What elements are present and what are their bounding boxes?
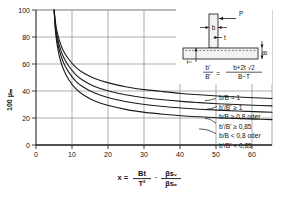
legend-label-1b: b'/B' ≥ 1: [219, 104, 243, 111]
y-tick-label-100: 100: [18, 7, 30, 14]
inset-ratio-den-left: B': [205, 73, 210, 80]
inset-label-T: T: [186, 60, 193, 64]
legend-label-1a: b/B = 1: [219, 94, 240, 101]
x-tick-label-0: 0: [34, 151, 38, 158]
y-tick-label-80: 80: [22, 34, 30, 41]
x-tick-label-20: 20: [104, 151, 112, 158]
y-tick-label-20: 20: [22, 115, 30, 122]
inset-ratio-num-right: b+2t √2: [233, 64, 255, 71]
formula-num-2: βsᵥ: [165, 169, 177, 178]
inset-label-B: B: [261, 51, 268, 55]
x-tick-label-50: 50: [212, 151, 220, 158]
legend-label-3a: b/B < 0,8 oder: [219, 132, 261, 139]
legend-label-2a: b/B ≥ 0,8 oder: [219, 113, 261, 120]
formula-lhs: x =: [118, 173, 129, 182]
x-tick-label-10: 10: [68, 151, 76, 158]
formula-den-1: T²: [139, 179, 147, 188]
inset-web: [209, 14, 218, 48]
inset-ratio-num-left: b': [206, 64, 211, 71]
y-tick-label-60: 60: [22, 61, 30, 68]
y-axis-title: 100 μₘ: [6, 88, 14, 111]
y-tick-label-0: 0: [26, 142, 30, 149]
inset-ratio-den-right: B−T: [238, 73, 250, 80]
inset-label-t: t: [224, 34, 226, 41]
x-tick-label-30: 30: [140, 151, 148, 158]
y-tick-label-40: 40: [22, 88, 30, 95]
x-tick-label-40: 40: [176, 151, 184, 158]
inset-diagram: P b t B T b' B' =: [176, 8, 272, 84]
inset-ratio-equals: =: [216, 70, 220, 77]
inset-label-b: b: [212, 24, 216, 31]
formula-num-1: Bt: [138, 169, 146, 178]
figure-root: 100 80 60 40 20 0 0 10 20 30 40 50 60 10…: [0, 0, 299, 207]
legend-label-3b: b'/B' < 0,85: [219, 142, 252, 149]
formula-den-2: βsₒ: [165, 179, 177, 188]
inset-flange: [183, 48, 258, 59]
y-axis-title-group: 100 μₘ: [6, 88, 14, 111]
inset-background: [176, 8, 272, 84]
x-tick-label-60: 60: [248, 151, 256, 158]
inset-label-P: P: [239, 10, 243, 17]
chart-svg: 100 80 60 40 20 0 0 10 20 30 40 50 60 10…: [0, 0, 299, 207]
formula-multiply: ·: [155, 173, 157, 182]
legend-label-2b: b'/B' ≥ 0,85: [219, 123, 252, 130]
